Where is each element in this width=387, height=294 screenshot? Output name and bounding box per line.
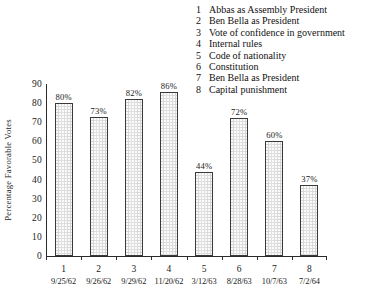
bar-value-label: 37% — [301, 174, 317, 184]
chart-page: 1Abbas as Assembly President2Ben Bella a… — [0, 0, 387, 294]
legend-item: 3Vote of confidence in government — [196, 27, 386, 38]
legend-item-number: 4 — [196, 38, 209, 49]
legend-item-number: 5 — [196, 50, 209, 61]
legend-item: 5Code of nationality — [196, 50, 386, 61]
bar: 60% — [265, 141, 283, 256]
x-date-label: 3/12/63 — [192, 277, 217, 286]
bar: 73% — [90, 117, 108, 257]
bar: 72% — [230, 118, 248, 256]
x-category-label: 7 — [272, 264, 277, 274]
bar-value-label: 60% — [266, 130, 282, 140]
x-category-label: 2 — [96, 264, 101, 274]
bar: 37% — [300, 185, 318, 256]
x-tick-mark — [81, 256, 82, 260]
x-category-label: 3 — [131, 264, 136, 274]
x-tick-mark — [46, 256, 47, 260]
y-tick-label: 20 — [32, 213, 42, 223]
x-category-label: 1 — [61, 264, 66, 274]
x-date-label: 9/26/62 — [86, 277, 111, 286]
legend-item: 7Ben Bella as President — [196, 72, 386, 83]
x-date-label: 9/29/62 — [121, 277, 146, 286]
plot-area: 0102030405060708090 80%73%82%86%44%72%60… — [46, 84, 327, 256]
x-category-label: 6 — [237, 264, 242, 274]
legend-item: 6Constitution — [196, 61, 386, 72]
legend-item-number: 2 — [196, 15, 209, 26]
bar: 86% — [160, 92, 178, 256]
bar-value-label: 44% — [196, 161, 212, 171]
x-tick-mark — [257, 256, 258, 260]
x-tick-mark — [292, 256, 293, 260]
legend-item-number: 6 — [196, 61, 209, 72]
bar-value-label: 80% — [55, 92, 71, 102]
x-date-label: 10/7/63 — [262, 277, 287, 286]
bar-value-label: 73% — [91, 106, 107, 116]
y-tick-label: 50 — [32, 155, 42, 165]
y-tick-label: 70 — [32, 117, 42, 127]
x-tick-mark — [116, 256, 117, 260]
bar: 82% — [125, 99, 143, 256]
y-axis-title: Percentage Favorable Votes — [3, 84, 16, 256]
y-tick-label: 10 — [32, 232, 42, 242]
x-tick-mark — [222, 256, 223, 260]
x-category-label: 5 — [202, 264, 207, 274]
legend-item-label: Code of nationality — [209, 50, 386, 61]
bar-value-label: 82% — [126, 88, 142, 98]
legend-item-label: Ben Bella as President — [209, 15, 386, 26]
legend-item-number: 3 — [196, 27, 209, 38]
x-tick-mark — [326, 256, 327, 260]
legend-item-label: Internal rules — [209, 38, 386, 49]
x-tick-mark — [187, 256, 188, 260]
x-date-label: 11/20/62 — [155, 277, 184, 286]
x-date-label: 9/25/62 — [51, 277, 76, 286]
y-tick-label: 90 — [32, 79, 42, 89]
legend-item: 2Ben Bella as President — [196, 15, 386, 26]
y-tick-label: 30 — [32, 194, 42, 204]
x-tick-mark — [151, 256, 152, 260]
legend-item-label: Ben Bella as President — [209, 72, 386, 83]
legend-item-number: 7 — [196, 72, 209, 83]
y-tick-label: 40 — [32, 175, 42, 185]
bar-value-label: 86% — [161, 81, 177, 91]
y-tick-label: 80 — [32, 98, 42, 108]
bar: 80% — [55, 103, 73, 256]
x-category-label: 8 — [307, 264, 312, 274]
legend-item: 4Internal rules — [196, 38, 386, 49]
legend-item-label: Abbas as Assembly President — [209, 4, 386, 15]
legend-item-number: 1 — [196, 4, 209, 15]
bar-value-label: 72% — [231, 107, 247, 117]
legend-item-label: Vote of confidence in government — [209, 27, 386, 38]
legend-item: 1Abbas as Assembly President — [196, 4, 386, 15]
x-category-label: 4 — [167, 264, 172, 274]
x-date-label: 8/28/63 — [227, 277, 252, 286]
legend-item-label: Constitution — [209, 61, 386, 72]
y-tick-label: 60 — [32, 136, 42, 146]
x-date-label: 7/2/64 — [299, 277, 320, 286]
y-tick-label: 0 — [37, 251, 42, 261]
y-axis-line — [46, 84, 47, 256]
bar: 44% — [195, 172, 213, 256]
chart-legend: 1Abbas as Assembly President2Ben Bella a… — [196, 4, 386, 95]
